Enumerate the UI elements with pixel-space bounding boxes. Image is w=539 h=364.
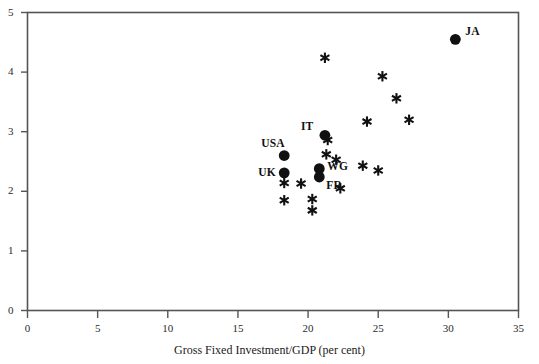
y-tick-label: 0 xyxy=(0,304,14,316)
point-label-wg: WG xyxy=(327,160,348,172)
point-label-fr: FR xyxy=(326,179,342,191)
y-tick-label: 4 xyxy=(0,65,14,77)
data-point-asterisk xyxy=(297,178,306,188)
y-tick-label: 5 xyxy=(0,6,14,18)
data-point-uk xyxy=(279,167,290,178)
plot-canvas xyxy=(0,0,539,364)
data-point-asterisk xyxy=(378,71,387,81)
data-point-asterisk xyxy=(280,178,289,188)
x-tick-label: 0 xyxy=(8,322,48,334)
point-label-uk: UK xyxy=(258,166,276,178)
data-point-asterisk xyxy=(358,160,367,170)
x-tick-label: 15 xyxy=(218,322,258,334)
x-tick-label: 25 xyxy=(358,322,398,334)
x-axis-title: Gross Fixed Investment/GDP (per cent) xyxy=(0,343,539,358)
x-tick-label: 20 xyxy=(288,322,328,334)
point-label-usa: USA xyxy=(261,137,285,149)
point-label-it: IT xyxy=(301,120,314,132)
y-tick-label: 1 xyxy=(0,244,14,256)
data-point-it xyxy=(320,130,331,141)
data-point-asterisk xyxy=(374,165,383,175)
data-point-usa xyxy=(279,150,290,161)
scatter-plot-figure: 05101520253035012345JAITUSAUKWGFRGross F… xyxy=(0,0,539,364)
data-point-asterisk xyxy=(308,194,317,204)
data-point-asterisk xyxy=(322,149,331,159)
data-point-asterisk xyxy=(392,93,401,103)
plot-frame xyxy=(28,13,519,311)
x-tick-label: 30 xyxy=(428,322,468,334)
x-tick-label: 5 xyxy=(78,322,118,334)
data-point-asterisk xyxy=(308,205,317,215)
x-tick-label: 35 xyxy=(499,322,539,334)
data-point-asterisk xyxy=(280,195,289,205)
data-point-asterisk xyxy=(405,115,414,125)
data-point-asterisk xyxy=(320,53,329,63)
data-point-ja xyxy=(450,34,461,45)
y-tick-label: 2 xyxy=(0,184,14,196)
data-point-fr xyxy=(314,172,325,183)
y-tick-label: 3 xyxy=(0,125,14,137)
x-tick-label: 10 xyxy=(148,322,188,334)
data-point-asterisk xyxy=(362,116,371,126)
point-label-ja: JA xyxy=(465,25,479,37)
